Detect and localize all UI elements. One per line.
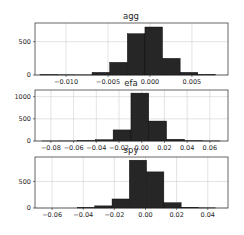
histogram-bar: [112, 199, 129, 208]
x-tick-label: 0.06: [203, 144, 217, 152]
x-tick-label: −0.02: [104, 211, 124, 219]
x-tick-label: 0.00: [138, 211, 152, 219]
subplot-title: efa: [124, 78, 137, 88]
histogram-bar: [149, 121, 167, 141]
subplot-spy: −0.06−0.04−0.020.000.020.040500spy: [19, 145, 228, 219]
histogram-bar: [113, 130, 131, 141]
x-tick-label: −0.06: [64, 144, 84, 152]
x-tick-label: 0.04: [201, 211, 215, 219]
x-tick-label: 0.02: [157, 144, 171, 152]
y-tick-label: 500: [19, 38, 31, 46]
histogram-bar: [127, 34, 145, 75]
histogram-figure: −0.010−0.0050.0000.0050500agg −0.08−0.06…: [0, 0, 244, 235]
y-tick-label: 500: [19, 178, 31, 186]
histogram-bar: [164, 203, 181, 208]
y-tick-label: 0: [27, 137, 31, 145]
y-tick-label: 0: [27, 71, 31, 79]
subplot-title: spy: [124, 145, 139, 155]
subplot-agg: −0.010−0.0050.0000.0050500agg: [19, 11, 228, 86]
x-tick-label: −0.010: [54, 78, 78, 86]
x-tick-label: 0.02: [169, 211, 183, 219]
histogram-bar: [131, 93, 149, 141]
y-tick-label: 500: [19, 115, 31, 123]
x-tick-label: −0.04: [73, 211, 93, 219]
histogram-bar: [110, 62, 128, 75]
histogram-bar: [180, 72, 198, 75]
x-tick-label: −0.06: [42, 211, 62, 219]
histogram-bar: [145, 27, 163, 75]
histogram-bar: [147, 172, 164, 208]
x-tick-label: −0.08: [41, 144, 61, 152]
x-tick-label: 0.04: [180, 144, 194, 152]
histogram-bar: [92, 72, 110, 75]
subplot-efa: −0.08−0.06−0.04−0.020.000.020.040.060500…: [14, 78, 228, 152]
x-tick-label: 0.005: [183, 78, 202, 86]
x-tick-label: −0.005: [96, 78, 120, 86]
histogram-bar: [129, 160, 146, 208]
x-tick-label: 0.000: [141, 78, 160, 86]
y-tick-label: 1000: [14, 93, 31, 101]
subplot-title: agg: [123, 11, 139, 21]
x-tick-label: −0.04: [86, 144, 106, 152]
y-tick-label: 0: [27, 204, 31, 212]
histogram-bar: [163, 58, 181, 75]
